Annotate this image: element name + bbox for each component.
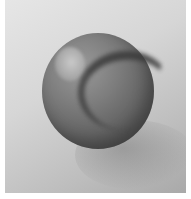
photo: [5, 0, 186, 193]
sphere: [42, 33, 154, 149]
specular-highlight: [55, 47, 85, 81]
